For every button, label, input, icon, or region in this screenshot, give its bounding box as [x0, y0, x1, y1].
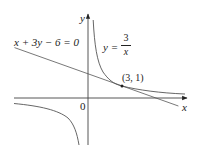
- line-equation-label: x + 3y − 6 = 0: [14, 37, 79, 48]
- tangent-line-diagram: [0, 0, 201, 158]
- tangent-line: [15, 48, 179, 106]
- curve-equation-numerator: 3: [121, 33, 131, 43]
- y-axis-label: y: [80, 13, 85, 24]
- x-axis-label: x: [182, 102, 187, 113]
- origin-label: 0: [80, 101, 86, 112]
- hyperbola-left-branch: [14, 104, 79, 146]
- curve-equation-lhs: y =: [103, 42, 118, 53]
- curve-equation-denominator: x: [121, 47, 131, 57]
- tangent-point: [121, 85, 124, 88]
- point-label: (3, 1): [122, 73, 144, 83]
